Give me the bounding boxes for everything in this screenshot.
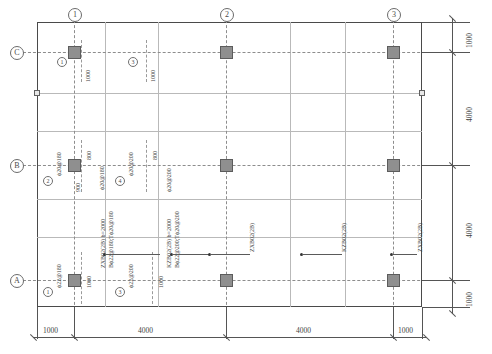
beam-tag-r2: KZB02(2B) <box>341 223 348 252</box>
callout-dim-a3: 1000 <box>158 276 165 288</box>
construction-line-h <box>37 237 422 238</box>
beam-label-left-name: ZXB02(2B) b=2000 <box>100 219 107 268</box>
grid-bubble-b[interactable]: B <box>10 159 24 173</box>
grid-bubble-2[interactable]: 2 <box>220 8 234 22</box>
edge-node-right <box>419 90 425 96</box>
callout-spec-b-mid-left: ϕ20@180 <box>99 166 106 190</box>
callout-dim-b4-above: 800 <box>152 151 159 160</box>
column-a2 <box>220 274 233 287</box>
dim-ext-line <box>422 22 470 23</box>
dim-ext-line <box>226 307 227 339</box>
dim-right-4: 1000 <box>466 292 474 307</box>
dim-line-bottom <box>33 337 426 338</box>
dim-ext-line <box>422 165 470 166</box>
construction-line-h <box>37 93 422 94</box>
callout-mark-b2[interactable]: 2 <box>43 176 53 186</box>
dim-bottom-1: 1000 <box>43 327 58 335</box>
beam-label-left-rebar: Bϕ22@180;Tϕ20@180 <box>108 211 115 268</box>
column-c3 <box>387 46 400 59</box>
callout-pin <box>81 40 82 82</box>
callout-spec-b4: ϕ20@200 <box>128 152 135 176</box>
callout-dim-b2-below: 900 <box>75 183 82 192</box>
dim-right-2: 4000 <box>466 107 474 122</box>
dim-ext-line <box>422 307 470 308</box>
callout-pin <box>152 252 153 304</box>
dim-right-1: 1000 <box>466 33 474 48</box>
edge-node-left <box>34 90 40 96</box>
column-c2 <box>220 46 233 59</box>
grid-bubble-3[interactable]: 3 <box>387 8 401 22</box>
callout-dim-a1: 1000 <box>86 276 93 288</box>
callout-mark-c3[interactable]: 3 <box>128 57 138 67</box>
callout-spec-a3: ϕ22@200 <box>128 264 135 288</box>
callout-pin <box>81 252 82 304</box>
beam-label-mid-rebar: Bϕ22@200;Tϕ20@200 <box>174 211 181 268</box>
beam-tag-r3: ZXB02(2B) <box>417 223 424 252</box>
callout-spec-a1: ϕ22@180 <box>56 264 63 288</box>
grid-bubble-1[interactable]: 1 <box>68 8 82 22</box>
callout-mark-a1[interactable]: 1 <box>43 287 53 297</box>
callout-spec-b-mid-right: ϕ20@200 <box>166 168 173 192</box>
callout-mark-b4[interactable]: 4 <box>115 176 125 186</box>
column-b1 <box>68 159 81 172</box>
column-b3 <box>387 159 400 172</box>
dim-ext-line <box>422 280 470 281</box>
dim-bottom-2: 4000 <box>138 327 153 335</box>
rebar-leader-line <box>105 254 160 255</box>
column-b2 <box>220 159 233 172</box>
column-a1 <box>68 274 81 287</box>
construction-line-h <box>37 131 422 132</box>
dim-ext-line <box>422 307 423 339</box>
grid-bubble-c[interactable]: C <box>10 46 24 60</box>
drawing-canvas: 1 2 3 C B A 1 1000 3 1000 2 ϕ20@180 800 … <box>0 0 492 354</box>
gridline-c <box>18 52 470 53</box>
callout-pin <box>146 40 147 82</box>
beam-label-mid-name: KZB02(2B) b=2000 <box>166 219 173 268</box>
grid-bubble-a[interactable]: A <box>10 274 24 288</box>
beam-tag-r1: ZXB02(2B) <box>249 223 256 252</box>
dim-right-3: 4000 <box>466 223 474 238</box>
column-a3 <box>387 274 400 287</box>
dim-ext-line <box>37 307 38 339</box>
dim-ext-line <box>393 307 394 339</box>
rebar-leader-line <box>210 254 250 255</box>
column-c1 <box>68 46 81 59</box>
dim-bottom-4: 1000 <box>398 327 413 335</box>
construction-line-h <box>37 199 422 200</box>
callout-spec-b2: ϕ20@180 <box>56 152 63 176</box>
callout-mark-c1[interactable]: 1 <box>57 57 67 67</box>
dim-bottom-3: 4000 <box>296 327 311 335</box>
rebar-leader-line <box>302 254 342 255</box>
callout-mark-a3[interactable]: 3 <box>115 287 125 297</box>
callout-dim-c3: 1000 <box>150 70 157 82</box>
callout-dim-c1: 1000 <box>85 70 92 82</box>
dim-ext-line <box>74 307 75 339</box>
callout-pin <box>146 140 147 192</box>
dim-ext-line <box>422 52 470 53</box>
callout-dim-b2-above: 800 <box>86 151 93 160</box>
rebar-leader-line <box>392 254 417 255</box>
gridline-b <box>18 165 470 166</box>
